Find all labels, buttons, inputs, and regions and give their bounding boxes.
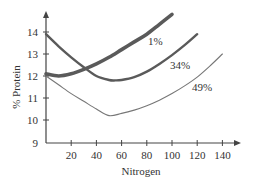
series-group <box>46 14 222 115</box>
axes: 9101112131420406080100120140Nitrogen% Pr… <box>10 11 241 177</box>
x-tick-label: 60 <box>116 149 128 161</box>
series-label-34pct: 34% <box>170 59 190 71</box>
x-tick-label: 100 <box>164 149 181 161</box>
x-tick-label: 140 <box>214 149 231 161</box>
x-tick-label: 120 <box>189 149 206 161</box>
series-label-1pct: 1% <box>148 35 163 47</box>
x-tick-label: 20 <box>66 149 78 161</box>
y-tick-label: 11 <box>27 92 38 104</box>
y-tick-label: 9 <box>33 137 39 149</box>
series-label-49pct: 49% <box>192 81 212 93</box>
x-tick-label: 80 <box>141 149 153 161</box>
x-tick-label: 40 <box>91 149 103 161</box>
protein-nitrogen-chart: 9101112131420406080100120140Nitrogen% Pr… <box>0 0 253 184</box>
x-axis-arrow-icon <box>234 140 241 146</box>
x-axis-title: Nitrogen <box>121 165 161 177</box>
y-tick-label: 14 <box>27 26 39 38</box>
y-axis-arrow-icon <box>43 11 49 18</box>
y-axis-title: % Protein <box>10 65 22 109</box>
y-tick-label: 13 <box>27 48 39 60</box>
y-tick-label: 10 <box>27 114 39 126</box>
y-tick-label: 12 <box>27 70 38 82</box>
